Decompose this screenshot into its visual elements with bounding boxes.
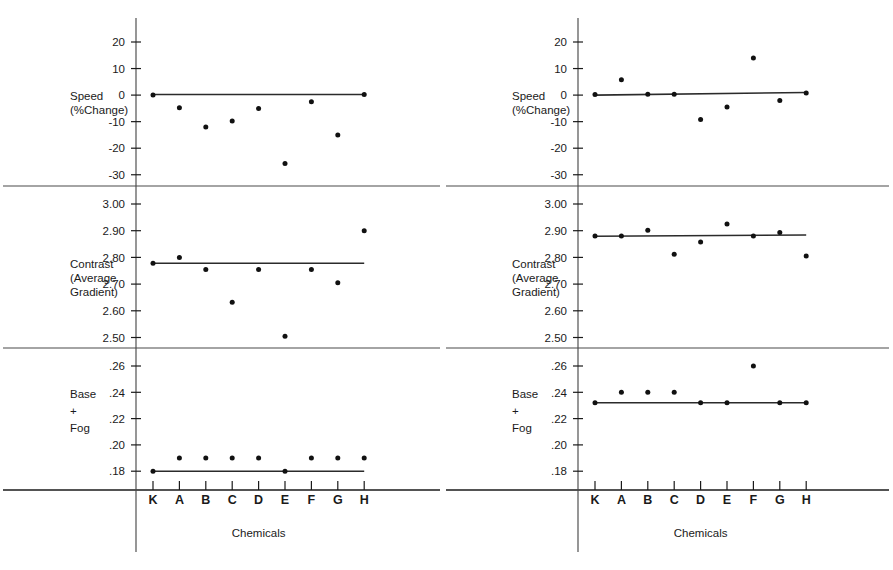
- axis-label-contrast-line-1: (Average: [512, 272, 558, 284]
- data-point-contrast-A: [619, 234, 624, 239]
- x-tick-label-K: K: [148, 493, 157, 507]
- data-point-speed-H: [804, 90, 809, 95]
- y-tick-label-contrast-4: 2.60: [103, 305, 125, 317]
- y-tick-label-speed-2: 0: [119, 89, 125, 101]
- data-point-speed-A: [619, 77, 624, 82]
- x-tick-label-F: F: [750, 493, 758, 507]
- data-point-base-fog-G: [777, 400, 782, 405]
- data-point-speed-E: [283, 161, 288, 166]
- data-point-contrast-F: [309, 267, 314, 272]
- y-tick-label-base-fog-4: .18: [109, 465, 125, 477]
- data-point-speed-K: [151, 93, 156, 98]
- data-point-contrast-C: [230, 300, 235, 305]
- axis-label-contrast-line-2: Gradient): [70, 286, 118, 298]
- x-tick-label-A: A: [617, 493, 626, 507]
- data-point-speed-D: [256, 106, 261, 111]
- y-tick-label-speed-5: -30: [550, 169, 567, 181]
- data-point-contrast-D: [698, 239, 703, 244]
- data-point-contrast-F: [751, 234, 756, 239]
- section-left-contrast: 3.002.902.802.702.602.50Contrast(Average…: [70, 198, 367, 344]
- data-point-speed-C: [230, 119, 235, 124]
- x-tick-label-E: E: [281, 493, 289, 507]
- panel-right: 20100-10-20-30Speed(%Change)3.002.902.80…: [446, 18, 889, 552]
- data-point-speed-E: [725, 105, 730, 110]
- y-tick-label-base-fog-0: .26: [551, 360, 567, 372]
- axis-label-base-fog-line-0: Base: [512, 388, 538, 400]
- y-tick-label-base-fog-1: .24: [551, 387, 568, 399]
- data-point-contrast-G: [777, 230, 782, 235]
- panel-left: 20100-10-20-30Speed(%Change)3.002.902.80…: [3, 18, 440, 552]
- section-left-base-fog: .26.24.22.20.18Base+Fog: [70, 360, 367, 477]
- data-point-contrast-K: [593, 234, 598, 239]
- data-point-base-fog-B: [203, 456, 208, 461]
- data-point-speed-F: [309, 99, 314, 104]
- axis-label-speed-line-1: (%Change): [70, 104, 128, 116]
- x-tick-label-F: F: [308, 493, 316, 507]
- x-axis-title-right: Chemicals: [674, 527, 728, 539]
- x-tick-label-D: D: [696, 493, 705, 507]
- data-point-base-fog-K: [151, 469, 156, 474]
- x-tick-label-E: E: [723, 493, 731, 507]
- data-point-speed-K: [593, 92, 598, 97]
- data-point-speed-H: [362, 92, 367, 97]
- y-tick-label-contrast-1: 2.90: [103, 225, 125, 237]
- x-tick-label-H: H: [802, 493, 811, 507]
- x-tick-label-G: G: [333, 493, 343, 507]
- data-point-contrast-H: [804, 254, 809, 259]
- axis-label-speed-line-0: Speed: [512, 90, 545, 102]
- data-point-contrast-K: [151, 261, 156, 266]
- data-point-base-fog-F: [751, 364, 756, 369]
- y-tick-label-base-fog-3: .20: [551, 439, 567, 451]
- y-tick-label-speed-3: -10: [550, 116, 567, 128]
- y-tick-label-speed-1: 10: [554, 63, 567, 75]
- axis-label-contrast-line-0: Contrast: [70, 258, 114, 270]
- x-tick-label-H: H: [360, 493, 369, 507]
- axis-label-contrast-line-2: Gradient): [512, 286, 560, 298]
- section-right-contrast: 3.002.902.802.702.602.50Contrast(Average…: [512, 198, 809, 344]
- section-right-base-fog: .26.24.22.20.18Base+Fog: [512, 360, 809, 477]
- y-tick-label-speed-0: 20: [554, 36, 567, 48]
- y-tick-label-contrast-0: 3.00: [545, 198, 567, 210]
- axis-label-speed-line-1: (%Change): [512, 104, 570, 116]
- figure-container: 20100-10-20-30Speed(%Change)3.002.902.80…: [0, 0, 893, 570]
- x-tick-label-D: D: [254, 493, 263, 507]
- x-tick-label-C: C: [228, 493, 237, 507]
- data-point-contrast-D: [256, 267, 261, 272]
- y-tick-label-contrast-0: 3.00: [103, 198, 125, 210]
- axis-label-speed-line-0: Speed: [70, 90, 103, 102]
- y-tick-label-base-fog-1: .24: [109, 387, 126, 399]
- x-tick-label-B: B: [643, 493, 652, 507]
- data-point-speed-G: [335, 132, 340, 137]
- data-point-base-fog-H: [362, 456, 367, 461]
- reference-line-contrast: [595, 235, 806, 236]
- data-point-contrast-A: [177, 255, 182, 260]
- y-tick-label-speed-3: -10: [108, 116, 125, 128]
- data-point-base-fog-E: [725, 400, 730, 405]
- y-tick-label-speed-4: -20: [108, 142, 125, 154]
- data-point-speed-F: [751, 55, 756, 60]
- axis-label-base-fog-line-1: +: [70, 405, 77, 417]
- y-tick-label-base-fog-4: .18: [551, 465, 567, 477]
- y-tick-label-speed-0: 20: [112, 36, 125, 48]
- x-tick-label-G: G: [775, 493, 785, 507]
- data-point-contrast-H: [362, 228, 367, 233]
- axis-label-contrast-line-1: (Average: [70, 272, 116, 284]
- y-tick-label-contrast-1: 2.90: [545, 225, 567, 237]
- x-tick-label-K: K: [590, 493, 599, 507]
- data-point-base-fog-C: [230, 456, 235, 461]
- y-tick-label-speed-1: 10: [112, 63, 125, 75]
- data-point-contrast-G: [335, 280, 340, 285]
- y-tick-label-contrast-4: 2.60: [545, 305, 567, 317]
- axis-label-base-fog-line-1: +: [512, 405, 519, 417]
- data-point-speed-G: [777, 98, 782, 103]
- y-tick-label-base-fog-3: .20: [109, 439, 125, 451]
- section-right-speed: 20100-10-20-30Speed(%Change): [512, 36, 809, 181]
- data-point-base-fog-A: [619, 390, 624, 395]
- reference-line-speed: [595, 92, 806, 95]
- y-tick-label-speed-4: -20: [550, 142, 567, 154]
- y-tick-label-speed-2: 0: [561, 89, 567, 101]
- data-point-base-fog-K: [593, 400, 598, 405]
- data-point-contrast-E: [725, 222, 730, 227]
- section-left-speed: 20100-10-20-30Speed(%Change): [70, 36, 367, 181]
- data-point-base-fog-F: [309, 456, 314, 461]
